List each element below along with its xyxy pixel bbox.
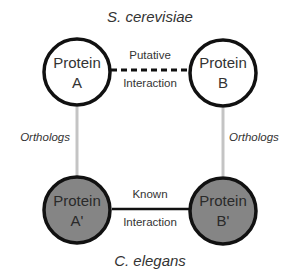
known-label: Known bbox=[132, 188, 167, 200]
protein-b-line2: B bbox=[218, 74, 228, 91]
protein-a-prime-line2: A' bbox=[71, 212, 84, 229]
protein-b-line1: Protein bbox=[199, 54, 247, 71]
protein-a-line1: Protein bbox=[53, 54, 101, 71]
node-protein-a: Protein A bbox=[44, 39, 110, 105]
protein-a-line2: A bbox=[72, 74, 82, 91]
orthologs-label-left: Orthologs bbox=[20, 131, 70, 143]
known-interaction-label: Interaction bbox=[123, 216, 177, 228]
orthologs-label-right: Orthologs bbox=[229, 131, 279, 143]
node-protein-a-prime: Protein A' bbox=[44, 177, 110, 243]
protein-b-prime-line1: Protein bbox=[199, 192, 247, 209]
node-protein-b-prime: Protein B' bbox=[190, 178, 256, 244]
putative-label: Putative bbox=[129, 49, 171, 61]
ortholog-interaction-diagram: S. cerevisiae C. elegans Orthologs Ortho… bbox=[0, 0, 289, 278]
node-protein-b: Protein B bbox=[190, 40, 256, 106]
top-species-label: S. cerevisiae bbox=[107, 8, 193, 25]
protein-a-prime-line1: Protein bbox=[53, 192, 101, 209]
putative-interaction-label: Interaction bbox=[123, 77, 177, 89]
protein-b-prime-line2: B' bbox=[217, 212, 230, 229]
bottom-species-label: C. elegans bbox=[114, 252, 186, 269]
